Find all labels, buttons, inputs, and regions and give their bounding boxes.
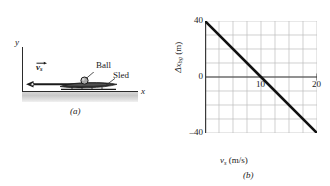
physics-figure: y x vs [0, 0, 330, 186]
panel-a-sled-diagram: y x vs [0, 0, 165, 186]
panel-b-line-chart: 40 0 –40 10 20 Δxbg (m) vs (m/s) (b) [165, 0, 330, 186]
chart-grid-and-line [205, 21, 317, 133]
sled-label: Sled [113, 70, 129, 80]
panel-a-y-axis-label: y [15, 37, 19, 47]
sled-with-ball-icon [58, 72, 120, 92]
y-axis-label-subscript: bg [176, 57, 183, 64]
panel-a-caption: (a) [70, 106, 81, 116]
plot-area [205, 21, 317, 133]
velocity-subscript: s [40, 65, 43, 72]
panel-a-x-axis-label: x [141, 86, 145, 96]
panel-a-y-axis [22, 47, 23, 91]
vector-overbar-arrow-icon [36, 60, 47, 65]
panel-b-caption: (b) [243, 170, 254, 180]
y-tick-label-40: 40 [185, 15, 203, 25]
y-tick-label-neg40: –40 [179, 127, 203, 137]
y-axis-label-symbol: Δx [173, 63, 183, 72]
x-tick-label-20: 20 [312, 79, 321, 89]
ball-label: Ball [96, 60, 111, 70]
x-axis-label-unit: (m/s) [227, 155, 248, 165]
x-tick-label-10: 10 [256, 79, 265, 89]
y-axis-label: Δxbg (m) [173, 20, 184, 94]
ground-surface [22, 92, 138, 102]
y-axis-label-unit: (m) [173, 42, 183, 57]
x-axis-label: vs (m/s) [220, 155, 248, 166]
y-tick-label-0: 0 [185, 71, 203, 81]
